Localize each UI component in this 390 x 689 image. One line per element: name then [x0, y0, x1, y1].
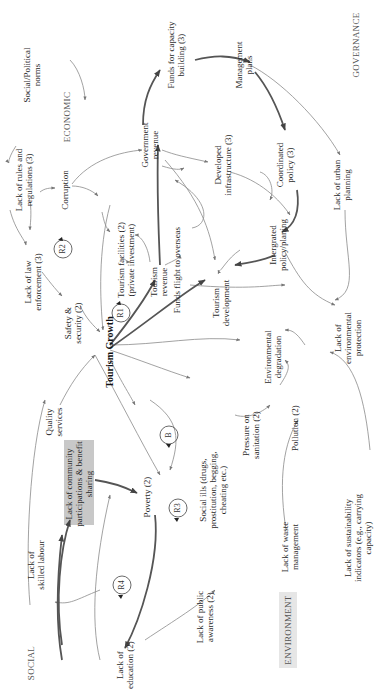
node-quality-services: Qualityservices [44, 407, 64, 436]
thick-arrows [58, 56, 298, 660]
thin-arrows [9, 60, 370, 660]
node-lack-urban-planning: Lack of urbanplanning [332, 159, 352, 210]
sector-environment: ENVIRONMENT [283, 595, 293, 664]
sector-governance: GOVERNANCE [351, 12, 361, 77]
node-lack-public-awareness: Lack of publicawareness (2) [195, 591, 215, 643]
node-environmental-degradation: Environmentaldegradation [263, 330, 283, 384]
node-lack-law-enforcement: Lack of lawenforcement (3) [23, 253, 43, 311]
svg-text:B: B [164, 432, 173, 437]
node-tourism-facilities: Tourism facilities (2)(private investmen… [116, 222, 136, 298]
loop-r4: R4 [113, 576, 131, 599]
svg-text:R2: R2 [58, 244, 67, 253]
node-pollution: Pollution (2) [290, 405, 300, 451]
svg-text:R1: R1 [116, 308, 125, 317]
node-tourism-growth: Tourism Growth [104, 316, 115, 388]
node-lack-sustainability: Lack of sustainabilityindicators (e.g., … [343, 493, 373, 582]
node-integrated-policy: Intergratedpolicy/planing [268, 219, 288, 271]
sector-social: SOCIAL [26, 646, 36, 680]
node-lack-waste: Lack of wastemanagement [280, 522, 300, 572]
node-funds-capacity: Funds for capacitybuilding (3) [166, 21, 186, 88]
loop-r2: R2 [54, 237, 72, 258]
node-coordinated-policy: Coordinatedpolicy (3) [275, 142, 295, 187]
node-corruption: Corruption [60, 170, 70, 210]
node-developed-infrastructure: Developedinfrastructure (3) [213, 134, 233, 195]
svg-text:R4: R4 [117, 580, 126, 589]
node-lack-education: Lack ofeducation (2) [115, 641, 135, 689]
node-social-political-norms: Social/Politicalnorms [22, 47, 42, 102]
node-pressure-sanitation: Pressure onsanitation (2) [241, 411, 261, 459]
node-safety-security: Safety &security (2) [63, 302, 83, 343]
loop-r3: R3 [169, 499, 187, 522]
node-poverty: Poverty (2) [142, 477, 152, 518]
node-social-ills: Social ills (drugs,prostitution, begging… [198, 451, 228, 528]
node-management-plans: Managementplans [234, 41, 254, 88]
svg-text:R3: R3 [173, 503, 182, 512]
sector-economic: ECONOMIC [62, 92, 72, 142]
node-tourism-revenue: Tourismrevenue [149, 267, 169, 297]
causal-loop-diagram: R2 R1 B R3 R4 ECONOMIC GOVERNANCE SOCIAL… [0, 0, 390, 689]
node-funds-flight: Funds flight to overseas [172, 226, 182, 313]
node-lack-rules: Lack of rules andregulations (3) [14, 148, 34, 211]
node-lack-skilled-labour: Lack ofskilled labour [26, 540, 46, 589]
